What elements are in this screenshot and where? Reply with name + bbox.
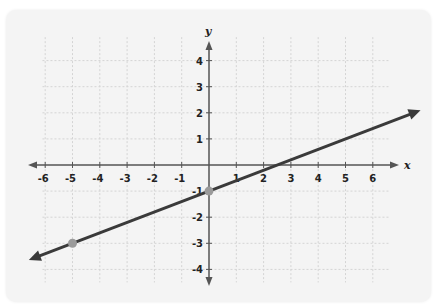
x-tick-label: 2	[260, 173, 267, 184]
data-line	[29, 109, 421, 261]
line-start-arrow-icon	[29, 251, 42, 261]
y-tick-label: 4	[196, 56, 203, 67]
x-tick-label: -6	[38, 173, 49, 184]
y-tick-label: 1	[196, 134, 203, 145]
x-tick-label: -4	[92, 173, 103, 184]
y-tick-label: 2	[196, 108, 203, 119]
y-axis-title: y	[204, 25, 213, 38]
y-axis-up-arrow-icon	[206, 41, 213, 50]
line-graph	[36, 113, 413, 257]
y-tick-label: -3	[192, 238, 203, 249]
data-point	[68, 239, 77, 248]
x-tick-label: 4	[315, 173, 322, 184]
x-tick-label: -5	[65, 173, 76, 184]
x-tick-label: -3	[120, 173, 131, 184]
x-tick-label: -1	[174, 173, 185, 184]
y-axis-down-arrow-icon	[206, 277, 213, 286]
data-point	[205, 187, 214, 196]
x-tick-label: 6	[369, 173, 376, 184]
y-tick-label: 3	[196, 82, 203, 93]
y-tick-label: -4	[192, 264, 203, 275]
axes	[28, 41, 399, 286]
line-end-arrow-icon	[407, 109, 420, 119]
grid-lines	[42, 37, 389, 282]
x-tick-label: 5	[342, 173, 349, 184]
x-axis-title: x	[403, 159, 411, 172]
y-tick-label: -2	[192, 212, 203, 223]
x-axis-left-arrow-icon	[28, 162, 37, 169]
x-tick-label: -2	[147, 173, 158, 184]
coordinate-plane: -6-5-4-3-2-11234564321-1-2-3-4 x y	[0, 0, 437, 304]
x-axis-right-arrow-icon	[390, 162, 399, 169]
x-tick-label: 3	[287, 173, 294, 184]
